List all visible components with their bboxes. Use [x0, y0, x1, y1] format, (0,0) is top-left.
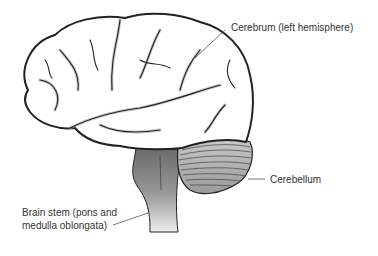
cerebrum-shape [24, 14, 252, 150]
brainstem-label-line1: Brain stem (pons and [22, 207, 117, 219]
brainstem-leader-line [113, 213, 148, 225]
brain-diagram: Cerebrum (left hemisphere) Cerebellum Br… [0, 0, 378, 256]
brainstem-label-line2: medulla oblongata) [22, 220, 107, 232]
cerebellum-label: Cerebellum [270, 174, 321, 186]
cerebrum-label: Cerebrum (left hemisphere) [231, 22, 353, 34]
brainstem-shape [133, 148, 182, 232]
